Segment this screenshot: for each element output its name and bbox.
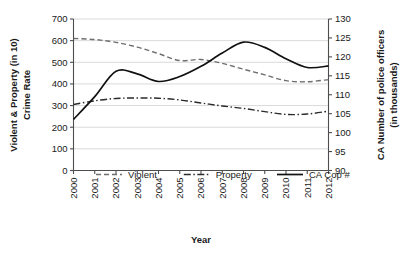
x-tick-label: 2006 [195,178,206,199]
right-tick-label: 115 [335,70,350,81]
right-tick-label: 125 [335,32,351,43]
x-tick-label: 2002 [110,178,121,199]
chart-legend: ViolentPropertyCA Cop # [96,169,350,180]
x-tick-label: 2005 [174,178,185,199]
x-axis-title: Year [191,234,211,245]
right-axis-title-line1: CA Number of police officers [375,30,386,161]
left-axis-title-line1: Violent & Property (in 10) [8,38,19,151]
left-tick-label: 600 [52,35,68,46]
legend-label-violent: Violent [128,169,157,180]
crime-rate-police-officers-line-chart: 0100200300400500600700 90951001051101151… [0,0,410,254]
x-tick-label: 2011 [302,178,313,198]
left-axis-title-line2: Crime Rate [21,70,32,120]
x-tick-label: 2001 [89,178,100,199]
x-tick-label: 2010 [280,178,291,199]
x-tick-label: 2008 [238,178,249,199]
x-tick-label: 2000 [68,178,79,199]
x-tick-label: 2003 [132,178,143,199]
left-tick-label: 0 [62,165,67,176]
right-tick-label: 120 [335,51,351,62]
x-tick-label: 2009 [259,178,270,199]
legend-label-ca-cop: CA Cop # [309,169,350,180]
legend-label-property: Property [216,169,252,180]
left-tick-label: 700 [52,13,68,24]
right-tick-label: 95 [335,146,346,157]
right-tick-label: 110 [335,89,350,100]
x-tick-label: 2012 [323,178,334,199]
left-tick-label: 500 [52,57,68,68]
x-tick-label: 2007 [217,178,228,199]
left-tick-label: 400 [52,78,68,89]
left-tick-label: 300 [52,100,68,111]
left-tick-label: 200 [52,122,68,133]
right-tick-label: 105 [335,108,351,119]
chart-container: 0100200300400500600700 90951001051101151… [0,0,410,254]
x-tick-label: 2004 [153,178,164,199]
right-axis-title-line2: (in thousands) [388,62,399,127]
right-tick-label: 130 [335,13,351,24]
right-tick-label: 100 [335,127,351,138]
left-tick-label: 100 [52,143,68,154]
